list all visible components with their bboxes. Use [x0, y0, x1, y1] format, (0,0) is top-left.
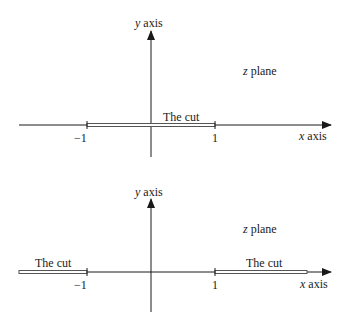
cut-label-left: The cut	[35, 256, 72, 270]
tick-label-minus-one: −1	[74, 131, 87, 145]
x-axis-label: x axis	[299, 277, 328, 291]
z-plane-label: z plane	[242, 222, 277, 236]
cut-label: The cut	[163, 110, 200, 124]
tick-label-minus-one: −1	[74, 278, 87, 292]
branch-cut-right	[215, 271, 307, 274]
top-diagram: y axis z plane The cut −1 1 x axis	[19, 16, 331, 157]
branch-cut-left	[19, 271, 87, 274]
tick-label-one: 1	[212, 131, 218, 145]
y-axis-label: y axis	[134, 185, 163, 199]
bottom-diagram: y axis z plane The cut The cut −1 1 x ax…	[19, 185, 331, 312]
cut-label-right: The cut	[246, 256, 283, 270]
y-axis-label: y axis	[134, 16, 163, 30]
tick-label-one: 1	[212, 278, 218, 292]
z-plane-label: z plane	[242, 64, 277, 78]
branch-cut-diagrams: y axis z plane The cut −1 1 x axis y axi…	[0, 0, 346, 326]
x-axis-label: x axis	[298, 129, 327, 143]
